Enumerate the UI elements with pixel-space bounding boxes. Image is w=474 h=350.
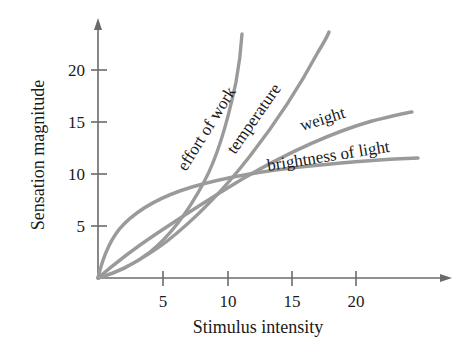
- x-axis-title: Stimulus intensity: [193, 317, 324, 337]
- curve-effort-of-work: [98, 34, 242, 278]
- x-tick-labels-group: 5 10 15 20: [159, 292, 365, 311]
- axes-group: [94, 18, 452, 282]
- curve-label-effort-of-work: effort of work: [173, 83, 240, 174]
- curve-weight: [98, 112, 412, 278]
- y-tick-label-5: 5: [77, 217, 86, 236]
- curve-label-brightness-of-light: brightness of light: [266, 137, 391, 175]
- y-tick-labels-group: 5 10 15 20: [68, 61, 85, 236]
- x-tick-label-10: 10: [220, 292, 237, 311]
- y-axis-arrowhead: [94, 18, 102, 30]
- y-tick-label-10: 10: [68, 165, 85, 184]
- sensation-magnitude-chart: 5 10 15 20 5 10 15 20 Stimulus intensity…: [0, 0, 474, 350]
- y-tick-label-20: 20: [68, 61, 85, 80]
- x-tick-label-15: 15: [284, 292, 301, 311]
- x-tick-label-5: 5: [159, 292, 168, 311]
- curve-brightness-of-light: [98, 158, 418, 278]
- x-axis-arrowhead: [440, 274, 452, 282]
- y-axis-title: Sensation magnitude: [28, 80, 48, 230]
- y-ticks-group: [91, 70, 107, 226]
- y-tick-label-15: 15: [68, 113, 85, 132]
- chart-svg: 5 10 15 20 5 10 15 20 Stimulus intensity…: [0, 0, 474, 350]
- x-tick-label-20: 20: [348, 292, 365, 311]
